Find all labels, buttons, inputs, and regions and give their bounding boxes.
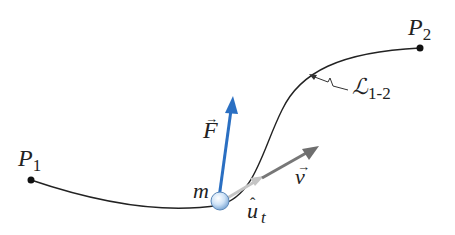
mass-label: m bbox=[193, 180, 209, 202]
force-label: →F bbox=[203, 118, 218, 142]
unit-tangent-label: ˆut bbox=[247, 200, 266, 226]
path-label-letter: ℒ bbox=[352, 74, 368, 99]
path-label-leader bbox=[312, 76, 348, 90]
diagram-canvas bbox=[0, 0, 455, 235]
force-arrow-shaft bbox=[219, 110, 231, 198]
point-p1-letter: P bbox=[18, 145, 33, 171]
point-p2-subscript: 2 bbox=[423, 25, 432, 44]
particle-ball bbox=[211, 192, 229, 210]
velocity-label: →v bbox=[295, 166, 305, 188]
point-p2-letter: P bbox=[408, 14, 423, 40]
force-vector-accent: → bbox=[205, 112, 218, 125]
mass-letter: m bbox=[193, 178, 209, 203]
unit-tangent-subscript: t bbox=[261, 208, 266, 227]
path-label-subscript: 1-2 bbox=[368, 84, 391, 103]
point-p1-label: P1 bbox=[18, 146, 41, 174]
point-p2-dot bbox=[417, 45, 424, 52]
unit-tangent-hat: ˆ bbox=[250, 196, 255, 212]
velocity-vector-accent: → bbox=[297, 160, 310, 173]
point-p2-label: P2 bbox=[408, 15, 431, 43]
path-label: ℒ1-2 bbox=[352, 76, 391, 102]
point-p1-subscript: 1 bbox=[33, 156, 42, 175]
trajectory-curve bbox=[31, 48, 420, 208]
velocity-arrowhead-icon bbox=[302, 146, 319, 160]
force-arrowhead-icon bbox=[225, 96, 238, 114]
point-p1-dot bbox=[28, 177, 35, 184]
